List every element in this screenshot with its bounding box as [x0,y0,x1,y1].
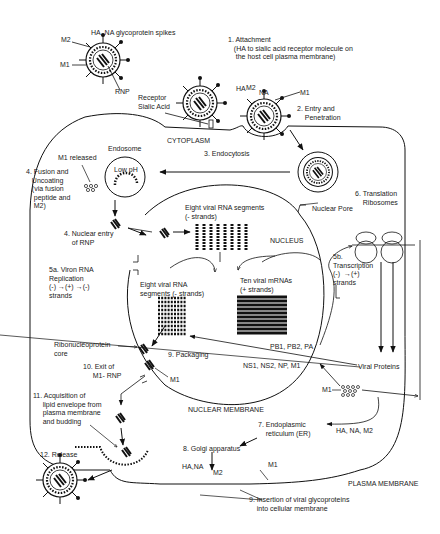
nuclear-pore-label: Nuclear Pore [312,205,353,214]
m1-membrane-label: M1 [268,461,278,470]
nuclear-membrane-label: NUCLEAR MEMBRANE [188,406,264,415]
spikes-label: HA, NA glycoprotein spikes [91,29,175,38]
attached-virion-icon [176,76,227,127]
m1-label-entry: M1 [300,89,310,98]
cytoplasm-label: CYTOPLASM [167,137,210,146]
released-virion-icon [36,453,87,504]
step-10-exit: 10. Exit of M1- RNP [83,363,122,380]
m2-label-entry: M2 [246,84,256,93]
endosome-icon [105,157,145,197]
ha-label: HA [236,85,246,94]
step-5a-replication: 5a. Viron RNA Replication (-) →(+) →(-) … [49,266,94,300]
step-5b-transcription: 5b. Transcription (-) →(+) strands [333,253,373,287]
nucleus-label: NUCLEUS [270,237,303,246]
ha-na-membrane-label: HA,NA [182,463,203,472]
step-3-endocytosis: 3. Endocytosis [204,150,250,159]
step-7-er: 7. Endoplasmic reticulum (ER) [258,421,311,438]
mrna-stack [237,297,287,333]
low-ph-label: Low pH [114,166,138,175]
influenza-replication-diagram: HA, NA glycoprotein spikes M2 M1 RNP Rec… [0,0,440,534]
virion-icon [79,33,130,84]
m2-membrane-label: M2 [213,469,223,478]
plasma-membrane-label: PLASMA MEMBRANE [348,480,418,489]
receptor-label: Receptor Sialic Acid [138,94,170,111]
endosome-label: Endosome [108,145,141,154]
rnp-label: RNP [115,88,130,97]
m1-released-label: M1 released [58,154,97,163]
step-4-fusion: 4. Fusion and Uncoating (via fusion pept… [26,168,70,211]
endocytic-vesicle-icon [298,152,338,192]
vrna-top-label: Eight viral RNA segments (- strands) [185,204,264,221]
step-2-entry: 2. Entry and Penetration [297,105,341,122]
step-1-attachment: 1. Attachment (HA to sialic acid recepto… [228,36,353,62]
rnp-core-label: Ribonucleoprotein core [54,341,110,358]
polymerase-proteins-label: PB1, PB2, PA [270,343,313,352]
viral-proteins-label: Viral Proteins [358,363,400,372]
mrna-label: Ten viral mRNAs (+ strands) [240,277,292,294]
vrna-segments-bottom [158,298,186,334]
m1-released-particles [84,184,97,191]
m1-cluster-label: M1 [322,386,332,395]
m2-label: M2 [61,36,71,45]
step-11-acquisition: 11. Acquisition of lipid envelope from p… [33,392,101,426]
step-8-golgi: 8. Golgi apparatus [183,445,240,454]
m1-protein-cluster [342,386,360,397]
step-9-insertion: 9. Insertion of viral glycoproteins into… [249,496,349,513]
ha-na-m2-label: HA, NA, M2 [336,427,373,436]
ns-proteins-label: NS1, NS2, NP, M1 [243,362,300,371]
m1-label: M1 [60,61,70,70]
vrna-bottom-label: Eight viral RNA segments (- strands) [140,281,204,298]
step-6-translation: 6. Translation Ribosomes [355,190,398,207]
step-4-nuclear-entry: 4. Nuclear entry of RNP [64,230,113,247]
na-label: NA [259,89,269,98]
step-9-packaging: 9. Packaging [168,351,208,360]
step-12-release: 12. Release [40,451,77,460]
m1-packaging-label: M1 [170,376,180,385]
vrna-segments-top [197,224,246,250]
